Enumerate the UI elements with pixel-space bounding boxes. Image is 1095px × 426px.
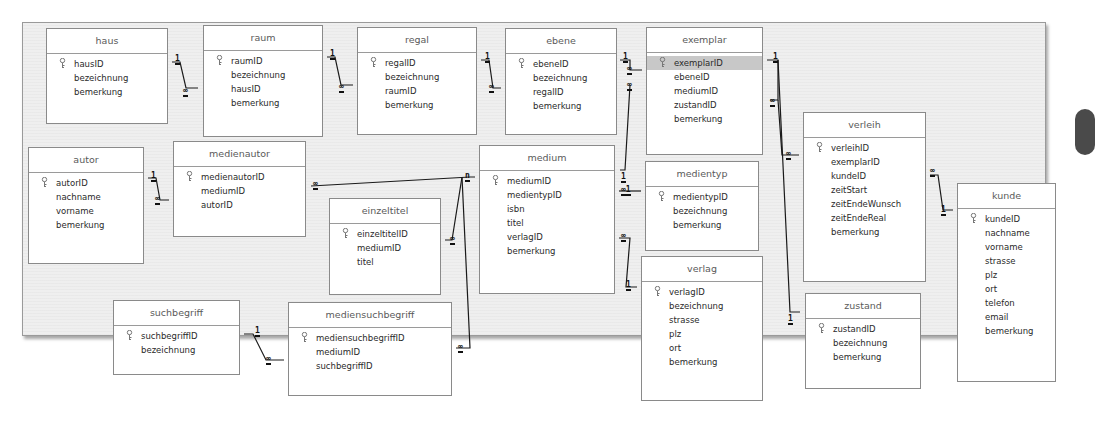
table-exemplar[interactable]: exemplarexemplarIDebeneIDmediumIDzustand… — [646, 27, 763, 155]
field[interactable]: strasse — [958, 254, 1055, 268]
primary-key-field[interactable]: verleihID — [804, 141, 925, 155]
table-title[interactable]: kunde — [958, 184, 1055, 209]
table-title[interactable]: einzeltitel — [330, 199, 440, 224]
table-title[interactable]: zustand — [806, 294, 920, 319]
table-title[interactable]: ebene — [506, 29, 616, 54]
field[interactable]: mediumID — [289, 345, 451, 359]
field[interactable]: strasse — [642, 313, 762, 327]
table-title[interactable]: suchbegriff — [114, 301, 239, 326]
table-mediensuchbegriff[interactable]: mediensuchbegriffmediensuchbegriffIDmedi… — [288, 302, 452, 396]
primary-key-field[interactable]: suchbegriffID — [114, 329, 239, 343]
field[interactable]: bezeichnung — [806, 336, 920, 350]
field[interactable]: vorname — [958, 240, 1055, 254]
table-autor[interactable]: autorautorIDnachnamevornamebemerkung — [28, 147, 144, 264]
field[interactable]: bezeichnung — [204, 68, 322, 82]
field[interactable]: zustandID — [647, 98, 762, 112]
field[interactable]: hausID — [204, 82, 322, 96]
field[interactable]: bemerkung — [804, 225, 925, 239]
table-medientyp[interactable]: medientypmedientypIDbezeichnungbemerkung — [645, 161, 759, 251]
field[interactable]: autorID — [174, 198, 305, 212]
table-title[interactable]: mediensuchbegriff — [289, 303, 451, 328]
primary-key-field[interactable]: medientypID — [646, 190, 758, 204]
field[interactable]: bemerkung — [806, 350, 920, 364]
primary-key-field[interactable]: einzeltitelID — [330, 227, 440, 241]
field[interactable]: bemerkung — [29, 218, 143, 232]
table-raum[interactable]: raumraumIDbezeichnunghausIDbemerkung — [203, 25, 323, 137]
field[interactable]: zeitEndeWunsch — [804, 197, 925, 211]
field[interactable]: regalID — [506, 85, 616, 99]
primary-key-field[interactable]: mediensuchbegriffID — [289, 331, 451, 345]
table-regal[interactable]: regalregalIDbezeichnungraumIDbemerkung — [357, 27, 477, 135]
primary-key-field[interactable]: verlagID — [642, 285, 762, 299]
field[interactable]: kundeID — [804, 169, 925, 183]
field[interactable]: bemerkung — [958, 324, 1055, 338]
table-title[interactable]: haus — [47, 29, 167, 54]
table-title[interactable]: verleih — [804, 113, 925, 138]
field[interactable]: bemerkung — [642, 355, 762, 369]
field[interactable]: plz — [642, 327, 762, 341]
field[interactable]: ort — [642, 341, 762, 355]
table-verleih[interactable]: verleihverleihIDexemplarIDkundeIDzeitSta… — [803, 112, 926, 282]
table-einzeltitel[interactable]: einzeltiteleinzeltitelIDmediumIDtitel — [329, 198, 441, 295]
side-panel-toggle[interactable] — [1075, 109, 1095, 155]
field[interactable]: medientypID — [480, 188, 614, 202]
field[interactable]: exemplarID — [804, 155, 925, 169]
field[interactable]: email — [958, 310, 1055, 324]
field[interactable]: bezeichnung — [47, 71, 167, 85]
table-title[interactable]: verlag — [642, 257, 762, 282]
field[interactable]: titel — [330, 255, 440, 269]
table-zustand[interactable]: zustandzustandIDbezeichnungbemerkung — [805, 293, 921, 389]
table-title[interactable]: autor — [29, 148, 143, 173]
primary-key-field[interactable]: hausID — [47, 57, 167, 71]
primary-key-field[interactable]: zustandID — [806, 322, 920, 336]
field[interactable]: bemerkung — [204, 96, 322, 110]
field[interactable]: suchbegriffID — [289, 359, 451, 373]
field[interactable]: bemerkung — [647, 112, 762, 126]
primary-key-field[interactable]: autorID — [29, 176, 143, 190]
field[interactable]: nachname — [29, 190, 143, 204]
primary-key-field[interactable]: mediumID — [480, 174, 614, 188]
field[interactable]: titel — [480, 216, 614, 230]
field[interactable]: isbn — [480, 202, 614, 216]
table-title[interactable]: regal — [358, 28, 476, 53]
table-title[interactable]: medium — [480, 146, 614, 171]
table-ebene[interactable]: ebeneebeneIDbezeichnungregalIDbemerkung — [505, 28, 617, 135]
table-title[interactable]: medientyp — [646, 162, 758, 187]
field[interactable]: nachname — [958, 226, 1055, 240]
field[interactable]: telefon — [958, 296, 1055, 310]
field[interactable]: bemerkung — [506, 99, 616, 113]
table-haus[interactable]: haushausIDbezeichnungbemerkung — [46, 28, 168, 124]
table-title[interactable]: exemplar — [647, 28, 762, 53]
field[interactable]: mediumID — [647, 84, 762, 98]
field[interactable]: vorname — [29, 204, 143, 218]
field[interactable]: mediumID — [330, 241, 440, 255]
primary-key-field[interactable]: kundeID — [958, 212, 1055, 226]
field[interactable]: bezeichnung — [506, 71, 616, 85]
field[interactable]: ebeneID — [647, 70, 762, 84]
field[interactable]: bezeichnung — [114, 343, 239, 357]
primary-key-field[interactable]: raumID — [204, 54, 322, 68]
primary-key-field[interactable]: medienautorID — [174, 170, 305, 184]
field[interactable]: mediumID — [174, 184, 305, 198]
field[interactable]: bemerkung — [480, 244, 614, 258]
field[interactable]: bezeichnung — [646, 204, 758, 218]
field[interactable]: bezeichnung — [358, 70, 476, 84]
field[interactable]: verlagID — [480, 230, 614, 244]
field[interactable]: bemerkung — [358, 98, 476, 112]
table-title[interactable]: raum — [204, 26, 322, 51]
field[interactable]: bemerkung — [47, 85, 167, 99]
field[interactable]: zeitEndeReal — [804, 211, 925, 225]
primary-key-field[interactable]: exemplarID — [647, 56, 762, 70]
field[interactable]: zeitStart — [804, 183, 925, 197]
table-verlag[interactable]: verlagverlagIDbezeichnungstrasseplzortbe… — [641, 256, 763, 401]
table-title[interactable]: medienautor — [174, 142, 305, 167]
field[interactable]: bezeichnung — [642, 299, 762, 313]
primary-key-field[interactable]: regalID — [358, 56, 476, 70]
table-kunde[interactable]: kundekundeIDnachnamevornamestrasseplzort… — [957, 183, 1056, 382]
field[interactable]: plz — [958, 268, 1055, 282]
field[interactable]: bemerkung — [646, 218, 758, 232]
table-medium[interactable]: mediummediumIDmedientypIDisbntitelverlag… — [479, 145, 615, 294]
table-medienautor[interactable]: medienautormedienautorIDmediumIDautorID — [173, 141, 306, 237]
primary-key-field[interactable]: ebeneID — [506, 57, 616, 71]
field[interactable]: raumID — [358, 84, 476, 98]
